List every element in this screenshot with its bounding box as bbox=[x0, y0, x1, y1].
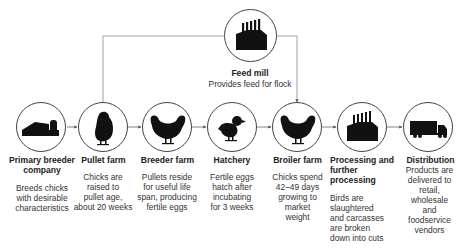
hatchery-description: Fertile eggs hatch after incubating for … bbox=[196, 172, 268, 212]
distribution-node bbox=[403, 102, 453, 152]
broiler-farm-node bbox=[272, 102, 322, 152]
breeder-farm-title: Breeder farm bbox=[130, 155, 205, 165]
pullet-icon bbox=[79, 103, 129, 153]
factory-icon bbox=[338, 103, 388, 153]
primary-breeder-node bbox=[16, 102, 66, 152]
processing-description: Birds are slaughtered and carcasses are … bbox=[330, 193, 405, 243]
factory-icon bbox=[225, 10, 278, 63]
hatchery-title: Hatchery bbox=[196, 155, 268, 165]
feed-mill-node bbox=[224, 9, 277, 62]
distribution-title: Distribution bbox=[400, 155, 461, 165]
broiler-icon bbox=[273, 103, 323, 153]
processing-node bbox=[337, 102, 387, 152]
broiler-farm-title: Broiler farm bbox=[260, 155, 335, 165]
truck-icon bbox=[404, 103, 454, 153]
distribution-description: Products are delivered to retail, wholes… bbox=[398, 165, 461, 235]
hatchery-node bbox=[207, 102, 257, 152]
breeder-farm-description: Pullets reside for useful life span, pro… bbox=[127, 172, 207, 212]
barn-silo-icon bbox=[17, 103, 67, 153]
broiler-farm-description: Chicks spend 42–49 days growing to marke… bbox=[260, 172, 335, 222]
feed-mill-title: Feed mill bbox=[190, 68, 310, 78]
hen-icon bbox=[143, 103, 193, 153]
chick-icon bbox=[208, 103, 258, 153]
pullet-farm-node bbox=[78, 102, 128, 152]
breeder-farm-node bbox=[142, 102, 192, 152]
processing-title: Processing and further processing bbox=[330, 155, 405, 185]
feed-mill-description: Provides feed for flock bbox=[180, 79, 320, 89]
